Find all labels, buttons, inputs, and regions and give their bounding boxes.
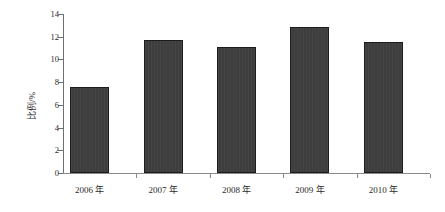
x-axis-label: 2010 年 [369, 186, 398, 195]
y-tick-label: 6 [55, 101, 59, 110]
x-tick-mark [283, 174, 284, 178]
bar-2010-年 [364, 42, 403, 173]
x-axis-label: 2006 年 [75, 186, 104, 195]
x-axis-label: 2008 年 [222, 186, 251, 195]
x-tick-mark [210, 174, 211, 178]
x-tick-mark [430, 174, 431, 178]
y-tick-label: 14 [51, 10, 60, 19]
y-tick-label: 12 [51, 32, 60, 41]
x-tick-mark [136, 174, 137, 178]
x-axis-line [63, 173, 430, 174]
x-tick-mark [357, 174, 358, 178]
y-tick-label: 2 [55, 146, 59, 155]
y-tick-label: 10 [51, 55, 60, 64]
bar-2006-年 [70, 87, 109, 173]
plot-area: 02468101214 2006 年2007 年2008 年2009 年2010… [63, 14, 430, 174]
x-axis-label: 2007 年 [148, 186, 177, 195]
bar-2008-年 [217, 47, 256, 173]
chart-page: 比例/% 02468101214 2006 年2007 年2008 年2009 … [0, 0, 445, 212]
y-axis-line [63, 14, 64, 174]
y-tick-label: 8 [55, 78, 59, 87]
y-tick-label: 0 [55, 169, 59, 178]
bar-2007-年 [144, 40, 183, 173]
bar-2009-年 [290, 27, 329, 174]
x-axis-label: 2009 年 [295, 186, 324, 195]
y-axis-title: 比例/% [28, 92, 37, 120]
y-tick-label: 4 [55, 123, 59, 132]
